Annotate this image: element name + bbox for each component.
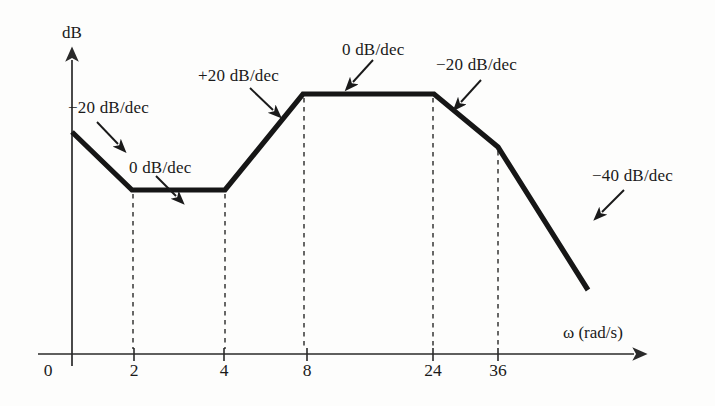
- annotation-slope-1: −20 dB/dec: [68, 99, 149, 116]
- magnitude-asymptote-curve: [72, 94, 588, 290]
- tick-label-8: 8: [303, 362, 312, 380]
- arrow-slope-5: [461, 80, 481, 102]
- arrow-slope-1: [97, 122, 118, 144]
- arrow-slope-2: [156, 176, 176, 196]
- bode-magnitude-plot: [0, 0, 715, 406]
- tick-label-0: 0: [44, 362, 53, 380]
- arrow-slope-3: [250, 88, 273, 110]
- x-axis-label: ω (rad/s): [563, 324, 623, 341]
- annotation-slope-6: −40 dB/dec: [592, 167, 673, 184]
- tick-label-4: 4: [220, 362, 229, 380]
- annotation-slope-3: +20 dB/dec: [198, 67, 279, 84]
- tick-label-24: 24: [424, 362, 442, 380]
- figure-canvas: dB ω (rad/s) 0 2 4 8 24 36 −20 dB/dec 0 …: [0, 0, 715, 406]
- annotation-slope-5: −20 dB/dec: [436, 56, 517, 73]
- arrow-slope-6: [602, 190, 624, 212]
- tick-label-36: 36: [489, 362, 507, 380]
- annotation-slope-2: 0 dB/dec: [129, 159, 192, 176]
- arrow-slope-4: [353, 60, 373, 82]
- tick-label-2: 2: [130, 362, 139, 380]
- dashed-guide-lines: [133, 98, 498, 349]
- y-axis-label: dB: [62, 24, 82, 41]
- annotation-slope-4: 0 dB/dec: [342, 41, 405, 58]
